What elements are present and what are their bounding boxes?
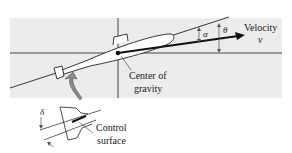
control-surface-label-line2: surface: [97, 135, 126, 146]
theta-label: θ: [223, 25, 227, 36]
velocity-label: Velocity: [244, 22, 277, 33]
delta-label: δ: [40, 107, 44, 118]
control-surface-label-line1: Control: [96, 122, 127, 133]
center-of-gravity-label-line2: gravity: [134, 83, 162, 94]
submarine-diagram: Velocity v α θ Center of gravity δ Contr…: [0, 0, 292, 153]
center-of-gravity-dot: [116, 51, 121, 56]
velocity-symbol: v: [258, 34, 262, 45]
alpha-label: α: [203, 29, 208, 40]
center-of-gravity-label-line1: Center of: [129, 70, 167, 81]
control-surface-inset: [39, 107, 101, 147]
